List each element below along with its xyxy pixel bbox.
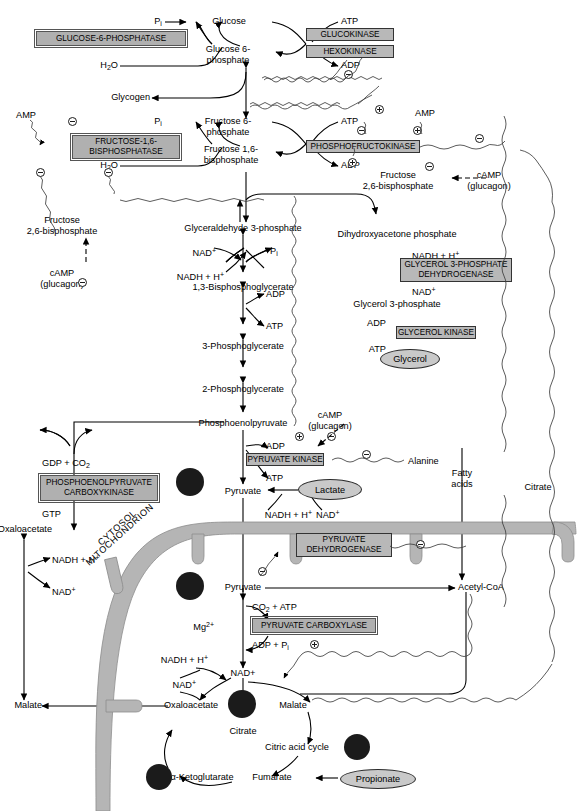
label-fatty-acids: Fattyacids bbox=[440, 468, 484, 489]
label-amp-pfk: AMP bbox=[415, 108, 435, 119]
label-nadh-h-ldh: NADH + H+ bbox=[265, 508, 312, 521]
pathway-lines bbox=[0, 0, 579, 811]
label-nadh-h-mdh-mito: NADH + H+ bbox=[161, 653, 208, 666]
enzyme-glycerol-kinase[interactable]: GLYCEROL KINASE bbox=[396, 326, 476, 339]
label-fumarate: α-Ketoglutarate bbox=[170, 772, 233, 783]
enzyme-phosphoenolpyruvate-carboxykinase[interactable]: PHOSPHOENOLPYRUVATECARBOXYKINASE bbox=[40, 475, 158, 501]
oval-propionate[interactable]: Propionate bbox=[340, 769, 416, 789]
sign-minus-alanine-pk bbox=[362, 450, 371, 459]
label-oxaloacetate-cytosol: Oxaloacetate bbox=[0, 524, 52, 535]
sign-minus-camp-pk bbox=[327, 432, 336, 441]
label-glyceraldehyde-3-phosphate: Glyceraldehyde 3-phosphate bbox=[184, 223, 301, 234]
multistep-dot-akg bbox=[344, 734, 370, 760]
sign-plus-acetylcoa-pc bbox=[310, 640, 319, 649]
label-nadh-h-gapdh: NADH + H+ bbox=[177, 270, 224, 283]
label-gdp-co2: GDP + CO2 bbox=[42, 458, 90, 472]
label-adp-pk: ADP bbox=[266, 441, 285, 452]
label-co2-atp: CO2 + ATP bbox=[252, 602, 297, 616]
multistep-dot-amino bbox=[176, 572, 204, 600]
label-citric-acid-cycle: Citrate bbox=[229, 726, 256, 737]
label-acetyl-coa: Acetyl-CoA bbox=[458, 582, 504, 593]
label-3-phosphoglycerate: 3-Phosphoglycerate bbox=[202, 341, 284, 352]
sign-plus-fbp-pk bbox=[295, 432, 304, 441]
label-citrate-right: Citrate bbox=[524, 482, 551, 493]
enzyme-glycerol-3-phosphate-dehydrogenase[interactable]: GLYCEROL 3-PHOSPHATEDEHYDROGENASE bbox=[400, 258, 512, 282]
label-2-phosphoglycerate: 2-Phosphoglycerate bbox=[202, 384, 284, 395]
enzyme-pyruvate-dehydrogenase[interactable]: PYRUVATEDEHYDROGENASE bbox=[296, 533, 392, 557]
label-adp-glycerolkinase: ADP bbox=[367, 318, 386, 329]
label-h2o-g6pase: H2O bbox=[100, 60, 118, 74]
label-alpha-ketoglutarate: Citric acid cycle bbox=[265, 742, 329, 753]
label-oxaloacetate-mito: NAD+ bbox=[231, 668, 256, 679]
label-glucose-6-phosphate: Glucose 6-phosphate bbox=[193, 44, 263, 65]
label-pyruvate-mito: Pyruvate bbox=[225, 582, 261, 593]
label-citrate-cycle: Malate bbox=[279, 700, 307, 711]
enzyme-hexokinase[interactable]: HEXOKINASE bbox=[306, 45, 394, 58]
label-atp-pfk: ATP bbox=[341, 116, 358, 127]
sign-plus-f26bp-pfk bbox=[348, 158, 357, 167]
label-nad-plus-mdh-cytosol: NAD+ bbox=[52, 585, 76, 598]
multistep-dot-pep bbox=[176, 468, 204, 496]
label-fructose-26bp-left: Fructose2,6-bisphosphate bbox=[14, 215, 110, 236]
enzyme-phosphofructokinase[interactable]: PHOSPHOFRUCTOKINASE bbox=[306, 140, 420, 153]
label-adp-pgk: ADP bbox=[266, 289, 285, 300]
label-nad-plus-mdh-mito: NAD+ bbox=[173, 678, 197, 691]
label-nad-plus-g3pdh: NAD+ bbox=[412, 285, 436, 298]
label-nad-plus-ldh: NAD+ bbox=[316, 508, 340, 521]
label-atp-pk: ATP bbox=[266, 473, 283, 484]
label-gtp: GTP bbox=[42, 509, 61, 520]
label-atp-pgk: ATP bbox=[266, 321, 283, 332]
sign-minus-camp-f26bp-left bbox=[78, 278, 87, 287]
sign-minus-amp2-fbpase bbox=[104, 168, 113, 177]
oval-glycerol[interactable]: Glycerol bbox=[380, 349, 440, 369]
label-malate-cytosol: Malate bbox=[14, 700, 42, 711]
label-glycerol-3-phosphate: Glycerol 3-phosphate bbox=[353, 299, 440, 310]
label-glycogen: Glycogen bbox=[111, 92, 150, 103]
label-glucose: Glucose bbox=[212, 16, 246, 27]
label-camp-glucagon-pk: cAMP(glucagon) bbox=[296, 410, 364, 431]
label-malate-mito: Oxaloacetate bbox=[164, 700, 218, 711]
label-pyruvate-cytosol: Pyruvate bbox=[225, 486, 261, 497]
pathway-diagram: Pi Glucose ATP H2O Glucose 6-phosphate A… bbox=[0, 0, 579, 811]
label-alanine: Alanine bbox=[408, 456, 439, 467]
label-amp-fbpase: AMP bbox=[16, 110, 36, 121]
oval-lactate[interactable]: Lactate bbox=[298, 479, 362, 500]
label-camp-glucagon-left: cAMP(glucagon) bbox=[22, 268, 102, 289]
sign-minus-f26bp-fbpase bbox=[36, 168, 45, 177]
label-fructose-6-phosphate: Fructose 6-phosphate bbox=[192, 116, 264, 137]
sign-plus-pfk-f6p bbox=[375, 105, 384, 114]
multistep-dot-fumarate bbox=[146, 764, 172, 790]
sign-minus-camp-f26bp-right bbox=[425, 162, 434, 171]
sign-minus-atp-pdh bbox=[258, 567, 267, 576]
label-camp-glucagon-right: cAMP(glucagon) bbox=[454, 170, 524, 191]
label-adp-pi: ADP + Pi bbox=[252, 640, 289, 654]
multistep-dot-oaa bbox=[228, 690, 256, 718]
sign-plus-amp-pfk bbox=[413, 126, 422, 135]
enzyme-glucokinase[interactable]: GLUCOKINASE bbox=[306, 28, 394, 41]
sign-minus-amp-fbpase bbox=[68, 117, 77, 126]
label-succinyl-coa: Fumarate bbox=[252, 772, 291, 783]
label-nad-plus-gapdh: NAD+ bbox=[193, 246, 217, 259]
enzyme-pyruvate-kinase[interactable]: PYRUVATE KINASE bbox=[246, 453, 324, 466]
label-pi-gapdh: Pi bbox=[270, 246, 278, 260]
label-pi-top: Pi bbox=[154, 16, 162, 30]
label-mg2plus: Mg2+ bbox=[193, 620, 214, 633]
label-pi-fbpase: Pi bbox=[154, 116, 162, 130]
sign-minus-acetylcoa-pdh bbox=[416, 540, 425, 549]
label-adp-glucokinase: ADP bbox=[341, 60, 360, 71]
enzyme-glucose-6-phosphatase[interactable]: GLUCOSE-6-PHOSPHATASE bbox=[36, 31, 186, 46]
sign-minus-glucokinase bbox=[344, 70, 353, 79]
label-fructose-1-6-bisphosphate: Fructose 1,6-bisphosphate bbox=[192, 144, 270, 165]
sign-minus-citrate-pfk bbox=[475, 134, 484, 143]
sign-minus-atp-pfk bbox=[357, 126, 366, 135]
label-phosphoenolpyruvate: Phosphoenolpyruvate bbox=[199, 418, 288, 429]
label-dihydroxyacetone-phosphate: Dihydroxyacetone phosphate bbox=[337, 229, 456, 240]
label-atp-glucokinase: ATP bbox=[341, 16, 358, 27]
label-fructose-26bp-right: Fructose2,6-bisphosphate bbox=[353, 170, 443, 191]
enzyme-pyruvate-carboxylase[interactable]: PYRUVATE CARBOXYLASE bbox=[252, 618, 376, 633]
enzyme-fructose-1-6-bisphosphatase[interactable]: FRUCTOSE-1,6-BISPHOSPHATASE bbox=[72, 135, 180, 159]
